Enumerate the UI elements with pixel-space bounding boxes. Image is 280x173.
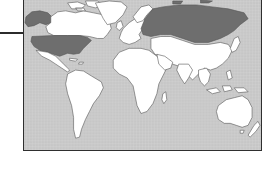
world-map-graphic xyxy=(24,0,261,150)
region-tasmania xyxy=(240,130,244,133)
world-map xyxy=(23,0,262,151)
leader-line xyxy=(0,32,23,34)
